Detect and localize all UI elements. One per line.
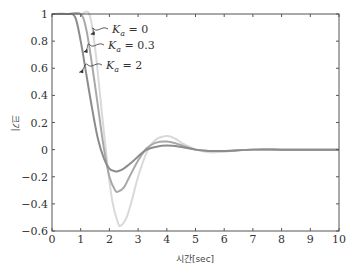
y-axis: 10.80.60.40.20−0.2−0.4−0.6 [21, 8, 339, 238]
step-response-chart: 012345678910 10.80.60.40.20−0.2−0.4−0.6 … [0, 0, 348, 269]
y-tick-label: 0.6 [31, 62, 49, 75]
series-line-1 [52, 13, 339, 192]
x-tick-label: 10 [332, 233, 346, 246]
x-tick-label: 5 [192, 233, 199, 246]
y-tick-label: 0.8 [31, 35, 49, 48]
x-tick-label: 7 [249, 233, 256, 246]
x-tick-label: 3 [135, 233, 142, 246]
series-lines [52, 11, 339, 226]
legend-label-0: Ka = 0 [111, 23, 148, 38]
x-tick-label: 4 [163, 233, 170, 246]
series-line-0 [52, 11, 339, 226]
x-tick-label: 6 [221, 233, 228, 246]
legend-label-1: Ka = 0.3 [107, 39, 155, 54]
y-tick-label: 0 [41, 144, 48, 157]
y-axis-title: 크기 [10, 115, 20, 131]
arrowhead-icon [79, 69, 83, 73]
x-tick-label: 0 [49, 233, 56, 246]
y-tick-label: −0.2 [21, 171, 48, 184]
x-tick-label: 9 [307, 233, 314, 246]
y-tick-label: 1 [41, 8, 48, 21]
x-tick-label: 1 [77, 233, 84, 246]
y-tick-label: 0.4 [31, 89, 49, 102]
y-tick-label: −0.6 [21, 225, 48, 238]
arrowhead-icon [84, 49, 88, 53]
legend-label-2: Ka = 2 [105, 59, 142, 74]
y-tick-label: 0.2 [31, 117, 49, 130]
x-tick-label: 2 [106, 233, 113, 246]
y-tick-label: −0.4 [21, 198, 48, 211]
x-tick-label: 8 [278, 233, 285, 246]
x-axis-title: 시간[sec] [176, 254, 214, 264]
x-axis: 012345678910 [49, 14, 347, 246]
